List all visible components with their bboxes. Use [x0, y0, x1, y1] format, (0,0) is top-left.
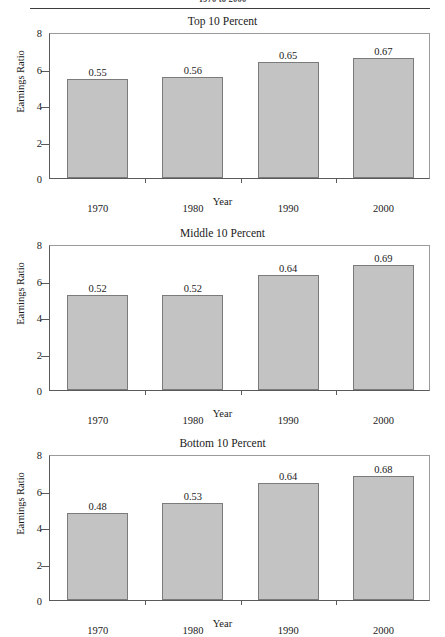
x-axis-tick	[145, 600, 146, 605]
y-axis-tick-label: 0	[20, 597, 42, 607]
y-axis-tick-label: 2	[20, 561, 42, 571]
x-axis-tick	[145, 390, 146, 395]
bar-value-label: 0.56	[163, 65, 223, 77]
bar	[67, 79, 128, 178]
y-axis-tick	[41, 319, 49, 320]
y-axis-tick	[41, 356, 49, 357]
y-axis-tick-label: 6	[20, 488, 42, 498]
bar-value-label: 0.55	[68, 67, 128, 79]
bar	[67, 513, 128, 600]
chart-title: Bottom 10 Percent	[0, 436, 445, 451]
bar-value-label: 0.64	[258, 471, 318, 483]
page-header-text: 1970 to 2000	[0, 0, 445, 4]
bar-value-label: 0.52	[163, 283, 223, 295]
x-axis-label: Year	[0, 408, 445, 419]
bar-value-label: 0.65	[258, 50, 318, 62]
bar	[353, 265, 414, 390]
x-axis-tick	[336, 178, 337, 183]
plot-area: 024680.5219700.5219800.6419900.692000	[49, 245, 430, 391]
bar-value-label: 0.53	[163, 491, 223, 503]
bar	[162, 295, 223, 390]
header-divider	[30, 8, 430, 9]
y-axis-tick-label: 6	[20, 66, 42, 76]
bar	[353, 476, 414, 600]
chart-title: Middle 10 Percent	[0, 226, 445, 241]
x-axis-label: Year	[0, 196, 445, 207]
x-axis-tick	[336, 390, 337, 395]
y-axis-label: Earnings Ratio	[15, 244, 26, 344]
bar-value-label: 0.67	[353, 46, 413, 58]
x-axis-tick	[241, 600, 242, 605]
chart-title: Top 10 Percent	[0, 14, 445, 29]
x-axis-tick	[241, 178, 242, 183]
x-axis-tick	[336, 600, 337, 605]
y-axis-tick-label: 4	[20, 524, 42, 534]
y-axis-label: Earnings Ratio	[15, 454, 26, 554]
bar-value-label: 0.52	[68, 283, 128, 295]
y-axis-tick-label: 0	[20, 387, 42, 397]
y-axis-tick-label: 4	[20, 314, 42, 324]
chart-panel-top-10-percent: Top 10 Percent Earnings Ratio 024680.551…	[0, 14, 445, 210]
y-axis-label: Earnings Ratio	[15, 32, 26, 132]
y-axis-tick-label: 0	[20, 175, 42, 185]
y-axis-tick-label: 8	[20, 451, 42, 461]
y-axis-tick-label: 6	[20, 278, 42, 288]
plot-area: 024680.5519700.5619800.6519900.672000	[49, 33, 430, 179]
y-axis-tick	[41, 493, 49, 494]
bar	[258, 62, 319, 178]
x-axis-label: Year	[0, 618, 445, 629]
bar-value-label: 0.69	[353, 253, 413, 265]
x-axis-tick	[145, 178, 146, 183]
page-header: 1970 to 2000	[0, 0, 445, 12]
y-axis-tick	[41, 566, 49, 567]
y-axis-tick	[41, 529, 49, 530]
y-axis-tick-label: 2	[20, 351, 42, 361]
x-axis-tick	[241, 390, 242, 395]
bar	[67, 295, 128, 390]
y-axis-tick	[41, 71, 49, 72]
y-axis-tick	[41, 283, 49, 284]
bar-value-label: 0.48	[68, 501, 128, 513]
bar	[258, 483, 319, 600]
bar	[353, 58, 414, 178]
bar	[162, 77, 223, 178]
bar	[258, 275, 319, 390]
y-axis-tick-label: 4	[20, 102, 42, 112]
y-axis-tick-label: 8	[20, 241, 42, 251]
bar	[162, 503, 223, 600]
y-axis-tick	[41, 144, 49, 145]
chart-panel-middle-10-percent: Middle 10 Percent Earnings Ratio 024680.…	[0, 226, 445, 422]
y-axis-tick-label: 8	[20, 29, 42, 39]
bar-value-label: 0.68	[353, 464, 413, 476]
plot-area: 024680.4819700.5319800.6419900.682000	[49, 455, 430, 601]
y-axis-tick-label: 2	[20, 139, 42, 149]
chart-panel-bottom-10-percent: Bottom 10 Percent Earnings Ratio 024680.…	[0, 436, 445, 632]
y-axis-tick	[41, 107, 49, 108]
bar-value-label: 0.64	[258, 263, 318, 275]
